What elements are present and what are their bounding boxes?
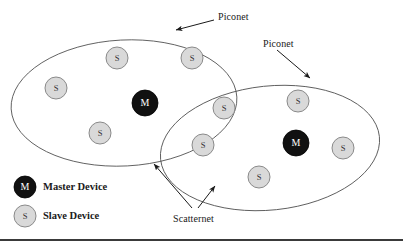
master-device-letter: M bbox=[21, 181, 30, 192]
legend-slave-label: Slave Device bbox=[43, 210, 99, 221]
piconet-label-left-arrow bbox=[176, 20, 214, 30]
piconet-left-master-node: M bbox=[132, 90, 158, 116]
master-device-letter: M bbox=[292, 137, 301, 148]
piconet-right-slave-node: S bbox=[248, 166, 270, 188]
piconet-label-left: Piconet bbox=[218, 11, 249, 22]
slave-device-letter: S bbox=[190, 53, 195, 63]
piconet-left-slave-node: S bbox=[89, 122, 111, 144]
piconet-scatternet-figure: MSSSSMSSSSS MS PiconetPiconetScatternetM… bbox=[0, 0, 403, 248]
slave-device-letter: S bbox=[115, 53, 120, 63]
legend-symbol-layer: MS bbox=[14, 176, 36, 227]
legend-slave-slave-node: S bbox=[14, 205, 36, 227]
slave-device-letter: S bbox=[222, 103, 227, 113]
legend-master-master-node: M bbox=[14, 176, 36, 198]
piconet-right-slave-node: S bbox=[287, 90, 309, 112]
piconet-label-right-arrow bbox=[277, 50, 310, 78]
piconet-right-slave-node: S bbox=[213, 97, 235, 119]
slave-device-letter: S bbox=[341, 143, 346, 153]
piconet-right-slave-node: S bbox=[332, 137, 354, 159]
slave-device-letter: S bbox=[296, 96, 301, 106]
piconet-label-right: Piconet bbox=[263, 38, 294, 49]
piconet-right-slave-node: S bbox=[192, 134, 214, 156]
scatternet-label: Scatternet bbox=[173, 213, 214, 224]
piconet-right-master-node: M bbox=[283, 130, 309, 156]
scatternet-label-arrow-1 bbox=[154, 164, 192, 208]
slave-device-letter: S bbox=[98, 128, 103, 138]
slave-device-letter: S bbox=[54, 83, 59, 93]
slave-device-letter: S bbox=[257, 172, 262, 182]
piconet-left-slave-node: S bbox=[45, 77, 67, 99]
piconet-left-slave-node: S bbox=[106, 47, 128, 69]
piconet-left-slave-node: S bbox=[181, 47, 203, 69]
legend-master-label: Master Device bbox=[43, 181, 107, 192]
slave-device-letter: S bbox=[23, 211, 28, 221]
scatternet-label-arrow-2 bbox=[198, 186, 215, 208]
slave-device-letter: S bbox=[201, 140, 206, 150]
device-node-layer: MSSSSMSSSSS bbox=[45, 47, 354, 188]
master-device-letter: M bbox=[141, 97, 150, 108]
